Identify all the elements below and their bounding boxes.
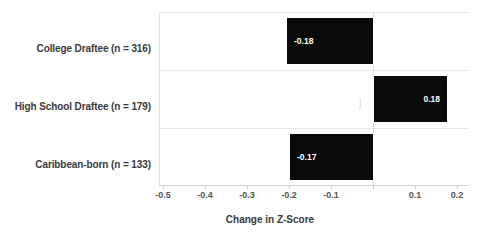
- xtick-label-0.1: 0.1: [409, 190, 422, 200]
- xtick-label--0.3: -0.3: [239, 190, 255, 200]
- xtick-label--0.4: -0.4: [197, 190, 213, 200]
- xtick-mark-0.2: [457, 186, 458, 189]
- xtick-mark--0.2: [289, 186, 290, 189]
- bar-high-school-draftee[interactable]: 0.18: [373, 75, 448, 123]
- gridline-horizontal-1: [159, 70, 469, 71]
- xtick-label-0.2: 0.2: [451, 190, 464, 200]
- xtick-mark--0.3: [247, 186, 248, 189]
- plot-area: ⌡ -0.18 0.18 -0.17: [159, 12, 469, 186]
- xtick-mark--0.1: [331, 186, 332, 189]
- x-axis-title-wrapper: Change in Z-Score: [0, 214, 482, 225]
- gridline-horizontal-top: [159, 12, 469, 13]
- bar-caribbean-born[interactable]: -0.17: [289, 133, 374, 181]
- x-axis-ticks: -0.5 -0.4 -0.3 -0.2 -0.1 0.1 0.2: [159, 186, 469, 202]
- xtick-mark-0.1: [415, 186, 416, 189]
- bar-chart: College Draftee (n = 316) High School Dr…: [0, 0, 482, 240]
- category-label-college-draftee: College Draftee (n = 316): [1, 43, 151, 55]
- category-label-high-school-draftee: High School Draftee (n = 179): [1, 101, 151, 113]
- bar-college-draftee[interactable]: -0.18: [286, 17, 374, 65]
- gridline-horizontal-2: [159, 128, 469, 129]
- xtick-mark--0.5: [163, 186, 164, 189]
- bar-value-high-school-draftee: 0.18: [423, 94, 440, 104]
- xtick-label--0.2: -0.2: [281, 190, 297, 200]
- bar-value-caribbean-born: -0.17: [297, 152, 316, 162]
- xtick-label--0.1: -0.1: [323, 190, 339, 200]
- category-label-caribbean-born: Caribbean-born (n = 133): [1, 159, 151, 171]
- stray-mark: ⌡: [357, 97, 363, 108]
- category-axis-labels: College Draftee (n = 316) High School Dr…: [0, 12, 159, 186]
- xtick-label--0.5: -0.5: [155, 190, 171, 200]
- gridline-vertical-left: [159, 12, 160, 186]
- x-axis-title: Change in Z-Score: [226, 214, 314, 225]
- xtick-mark--0.4: [205, 186, 206, 189]
- xtick-mark-0: [373, 186, 374, 189]
- bar-value-college-draftee: -0.18: [294, 36, 313, 46]
